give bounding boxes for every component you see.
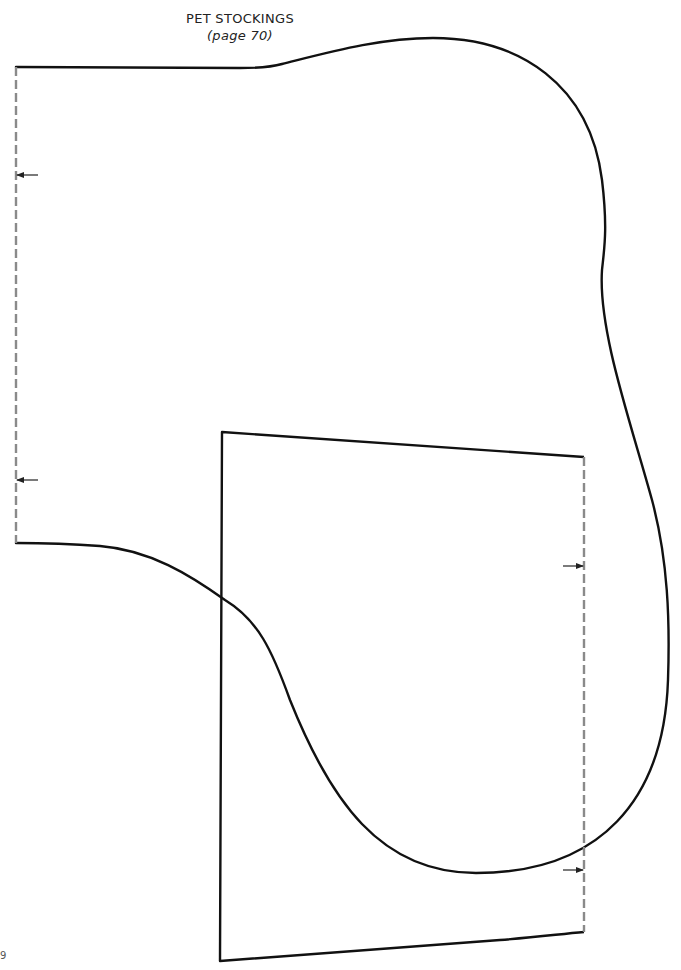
pattern-drawing bbox=[0, 0, 681, 970]
page-corner-mark: 9 bbox=[0, 950, 6, 961]
cuff-outline bbox=[220, 432, 584, 961]
